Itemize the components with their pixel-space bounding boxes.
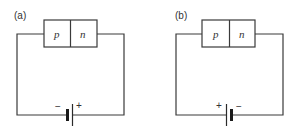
panel-a: (a) p n − +	[14, 10, 124, 126]
panel-b-n-region-label: n	[239, 28, 245, 40]
panel-a-n-region-label: n	[80, 28, 86, 40]
panel-b-label: (b)	[175, 10, 187, 21]
diagram-canvas: (a) p n − + (b) p n + −	[0, 0, 297, 130]
panel-a-battery-right-sign: +	[76, 100, 82, 111]
panel-a-p-region-label: p	[53, 28, 60, 40]
panel-b-p-region-label: p	[212, 28, 219, 40]
panel-b: (b) p n + −	[175, 10, 283, 126]
panel-a-label: (a)	[14, 10, 26, 21]
panel-b-battery-right-sign: −	[236, 101, 242, 112]
panel-a-battery-left-sign: −	[55, 101, 61, 112]
panel-b-pn-junction	[202, 20, 255, 47]
panel-b-battery-left-sign: +	[216, 100, 222, 111]
